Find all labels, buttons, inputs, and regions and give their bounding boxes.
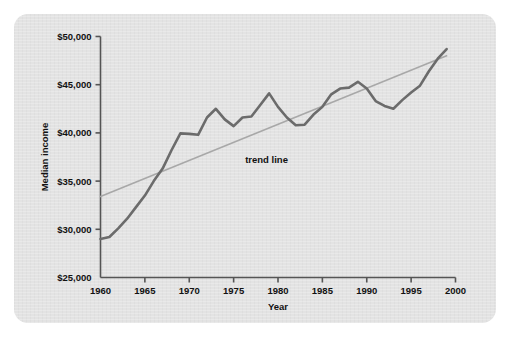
x-tick-label: 1965 <box>134 285 156 296</box>
y-tick-label: $30,000 <box>57 224 91 235</box>
trend-line-series <box>101 56 447 197</box>
y-tick-label: $40,000 <box>57 127 91 138</box>
x-tick-label: 1960 <box>90 285 111 296</box>
trend-line-annotation: trend line <box>245 154 288 165</box>
x-axis-title: Year <box>268 301 288 312</box>
y-tick-label: $50,000 <box>57 31 91 42</box>
x-tick-label: 1990 <box>356 285 377 296</box>
y-axis-tick-labels: $25,000$30,000$35,000$40,000$45,000$50,0… <box>57 31 91 283</box>
x-axis-tick-labels: 196019651970197519801985199019952000 <box>90 285 466 296</box>
y-tick-label: $25,000 <box>57 272 91 283</box>
y-tick-label: $35,000 <box>57 176 91 187</box>
x-tick-label: 1995 <box>401 285 423 296</box>
x-tick-label: 1970 <box>179 285 200 296</box>
y-tick-label: $45,000 <box>57 79 91 90</box>
chart-plot: $25,000$30,000$35,000$40,000$45,000$50,0… <box>0 0 510 337</box>
x-tick-label: 1980 <box>267 285 288 296</box>
x-tick-label: 1985 <box>312 285 334 296</box>
y-axis-title: Median income <box>39 123 50 192</box>
x-tick-label: 1975 <box>223 285 245 296</box>
x-tick-label: 2000 <box>445 285 466 296</box>
screenshot-root: $25,000$30,000$35,000$40,000$45,000$50,0… <box>0 0 510 337</box>
chart-annotations: trend line <box>245 154 288 165</box>
